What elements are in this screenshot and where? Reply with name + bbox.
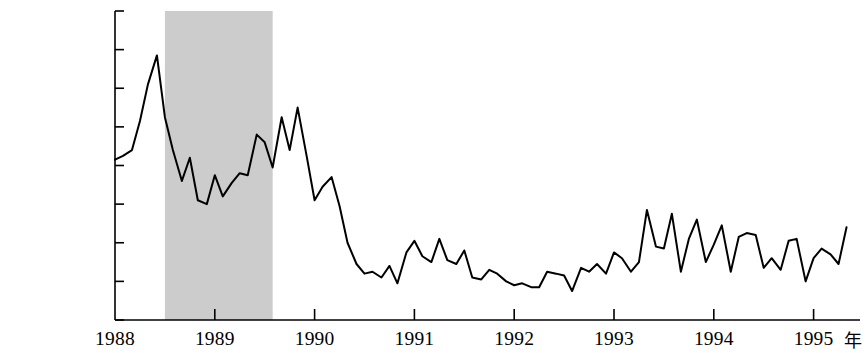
x-axis-unit-label: 年 bbox=[844, 330, 862, 352]
x-axis-tick-label: 1990 bbox=[275, 328, 355, 350]
x-axis-tick-label: 1995 bbox=[774, 328, 854, 350]
x-axis-tick-label: 1992 bbox=[474, 328, 554, 350]
x-axis-labels: 19881989199019911992199319941995 bbox=[0, 0, 868, 353]
x-axis-tick-label: 1988 bbox=[75, 328, 155, 350]
chart-container: 0.0020 000.0040 000.0060 000.0080 000.00… bbox=[0, 0, 868, 353]
x-axis-tick-label: 1994 bbox=[674, 328, 754, 350]
x-axis-tick-label: 1991 bbox=[374, 328, 454, 350]
x-axis-tick-label: 1989 bbox=[175, 328, 255, 350]
x-axis-tick-label: 1993 bbox=[574, 328, 654, 350]
